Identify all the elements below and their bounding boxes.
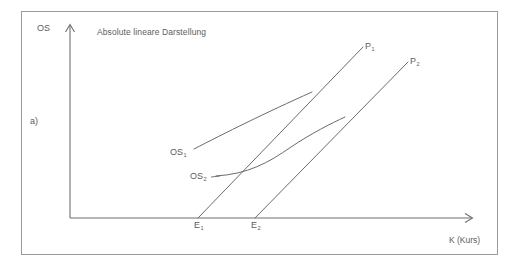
curve-label-p1: P1: [365, 42, 375, 51]
series-curve-os1: [194, 92, 312, 149]
curve-label-os1-base: OS: [170, 147, 183, 157]
curve-label-os1: OS1: [170, 148, 187, 157]
os2-leader-line: [211, 176, 220, 177]
curve-label-os2: OS2: [190, 172, 207, 181]
section-marker: a): [30, 117, 38, 126]
y-axis-label: OS: [37, 24, 50, 33]
x-axis-label: K (Kurs): [449, 236, 480, 245]
curve-label-p2: P2: [410, 57, 420, 66]
curve-label-os2-subscript: 2: [203, 176, 207, 182]
x-tick-label-e2: E2: [251, 221, 261, 230]
x-tick-label-e1-subscript: 1: [200, 225, 204, 231]
figure-root: a) Absolute lineare Darstellung OS K (Ku…: [0, 0, 519, 271]
x-tick-label-e1: E1: [194, 221, 204, 230]
curve-label-os2-base: OS: [190, 171, 203, 181]
chart-title: Absolute lineare Darstellung: [97, 28, 206, 37]
curve-label-p2-subscript: 2: [416, 61, 420, 67]
curve-label-os1-subscript: 1: [183, 152, 187, 158]
series-line-p2: [255, 62, 408, 218]
x-tick-label-e2-subscript: 2: [257, 225, 261, 231]
curve-label-p1-subscript: 1: [371, 46, 375, 52]
